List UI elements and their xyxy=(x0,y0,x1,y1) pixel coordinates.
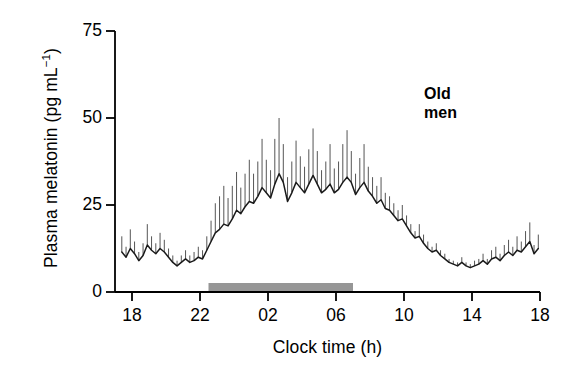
y-tick-label: 50 xyxy=(58,107,102,128)
melatonin-mean-line xyxy=(122,174,539,268)
group-annotation-old-men: Old men xyxy=(424,84,457,122)
x-tick-label: 14 xyxy=(452,305,492,326)
y-tick-label: 25 xyxy=(58,194,102,215)
y-axis-title-superscript: −1 xyxy=(40,54,52,67)
x-tick-label: 06 xyxy=(316,305,356,326)
x-tick-label: 18 xyxy=(112,305,152,326)
errorbar-group xyxy=(122,118,539,268)
x-tick-label: 10 xyxy=(384,305,424,326)
x-tick-label: 18 xyxy=(520,305,560,326)
y-tick-label: 75 xyxy=(58,20,102,41)
y-axis-title-tail: ) xyxy=(41,48,61,54)
dark-period-bar xyxy=(209,283,354,292)
x-tick-label: 02 xyxy=(248,305,288,326)
y-axis-title: Plasma melatonin (pg mL−1) xyxy=(36,0,66,318)
y-tick-label: 0 xyxy=(58,281,102,302)
x-axis-title: Clock time (h) xyxy=(115,337,540,358)
y-axis-title-text: Plasma melatonin (pg mL xyxy=(41,67,61,268)
x-tick-label: 22 xyxy=(180,305,220,326)
melatonin-figure: Plasma melatonin (pg mL−1) Clock time (h… xyxy=(0,0,576,376)
